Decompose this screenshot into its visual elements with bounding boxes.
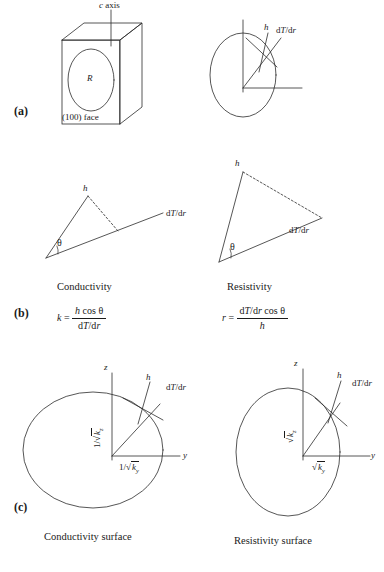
panel-c-right-h-label: h (337, 370, 342, 380)
panel-b-left-caption: Conductivity (57, 281, 112, 292)
panel-b-left-dashed-perpendicular (88, 196, 118, 231)
panel-b-right-theta-label: θ (230, 241, 235, 252)
panel-c-right-caption: Resistivity surface (234, 535, 312, 546)
panel-label-b: (b) (14, 306, 29, 321)
resistivity-equation-denominator: h (237, 319, 288, 332)
panel-c-right-y-intercept: √ky (312, 461, 325, 474)
panel-b-left-theta-label: θ (57, 237, 62, 248)
face-label: (100) face (62, 112, 99, 122)
panel-c-right-y-axis-label: y (371, 450, 375, 460)
panel-c-left-y-intercept: 1/√ky (119, 461, 139, 474)
panel-b-right-caption: Resistivity (227, 281, 272, 292)
panel-c-right-surface (236, 369, 370, 516)
panel-c-left-caption: Conductivity surface (44, 531, 132, 542)
ellipse-R-label: R (87, 73, 93, 83)
panel-label-a: (a) (14, 104, 28, 119)
panel-b-left-gradient-label: dT/dr (166, 208, 186, 218)
panel-c-right-z-axis-label: z (294, 358, 298, 368)
panel-a-h-label: h (264, 22, 269, 32)
conductivity-equation-numerator: h cos θ (72, 305, 106, 319)
panel-c-left-gradient-label: dT/dr (166, 382, 186, 392)
panel-a-cube (62, 10, 142, 124)
panel-a-gradient-label: dT/dr (276, 25, 296, 35)
conductivity-equation: k = h cos θ dT/dr (57, 305, 106, 332)
panel-c-left-z-intercept: 1/√kz (91, 429, 104, 449)
resistivity-equation: r = dT/dr cos θ h (222, 305, 288, 332)
panel-b-left-triangle (46, 196, 163, 258)
panel-c-left-y-axis-label: y (183, 450, 187, 460)
panel-b-left-h-label: h (83, 183, 88, 193)
panel-b-right-gradient-label: dT/dr (289, 225, 309, 235)
panel-c-left-h-label: h (146, 372, 151, 382)
resistivity-equation-numerator: dT/dr cos θ (237, 305, 288, 319)
panel-c-right-gradient-label: dT/dr (352, 378, 372, 388)
panel-c-right-z-intercept: √kz (284, 431, 297, 443)
conductivity-equation-denominator: dT/dr (72, 319, 106, 332)
panel-b-right-dashed-perpendicular (243, 172, 322, 218)
figure-canvas: (a) (b) (c) c axis R (100) face h dT/dr … (0, 0, 384, 572)
c-axis-label: c axis (99, 0, 120, 10)
panel-c-left-z-axis-label: z (104, 362, 108, 372)
panel-label-c: (c) (14, 500, 27, 515)
panel-b-right-h-label: h (235, 158, 240, 168)
